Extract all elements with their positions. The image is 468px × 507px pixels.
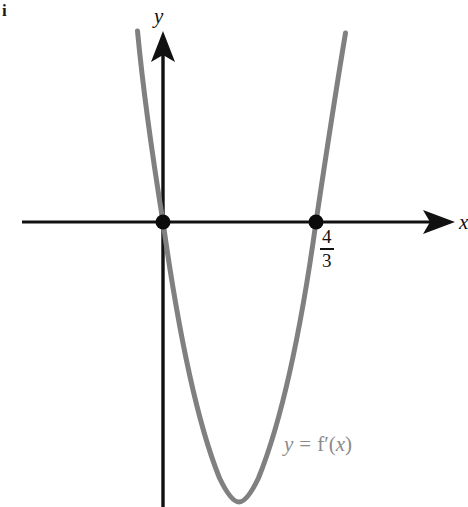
part-label: i (2, 2, 7, 19)
graph-svg (0, 0, 468, 507)
curve-equation-label: y=f′(x) (284, 434, 352, 455)
curve-label-equals: = (299, 432, 311, 456)
fraction-denominator: 3 (320, 251, 334, 271)
curve-label-close-paren: ) (345, 432, 352, 456)
origin-point-marker (156, 215, 171, 230)
root-tick-label-four-thirds: 4 3 (320, 227, 334, 271)
curve-label-open-paren: ( (329, 432, 336, 456)
fraction-numerator: 4 (320, 227, 334, 247)
curve-label-lhs: y (284, 432, 293, 456)
figure-canvas: i y x 4 3 y=f′(x) (0, 0, 468, 507)
y-axis-label: y (154, 6, 163, 27)
fraction: 4 3 (320, 227, 334, 271)
derivative-curve (138, 31, 346, 502)
x-axis-label: x (459, 212, 468, 233)
curve-label-argument: x (336, 432, 345, 456)
